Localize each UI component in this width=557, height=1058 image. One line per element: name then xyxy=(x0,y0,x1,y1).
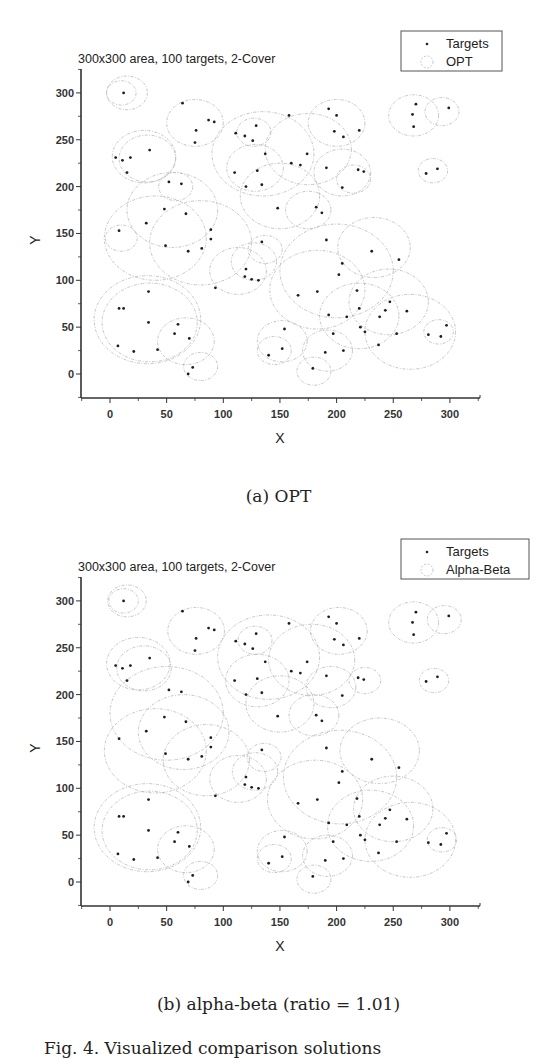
target-point xyxy=(405,310,408,313)
coverage-circle xyxy=(308,99,365,146)
target-point xyxy=(325,239,328,242)
target-point xyxy=(194,141,197,144)
x-tick-label: 100 xyxy=(214,408,232,420)
target-point xyxy=(187,250,190,253)
target-point xyxy=(122,92,125,95)
target-point xyxy=(342,136,345,139)
x-tick-label: 50 xyxy=(161,408,173,420)
target-point xyxy=(195,129,198,132)
coverage-circle xyxy=(184,352,218,380)
x-tick-label: 300 xyxy=(441,916,459,928)
target-point xyxy=(180,690,183,693)
target-point xyxy=(445,324,448,327)
target-point xyxy=(214,794,217,797)
target-point xyxy=(297,802,300,805)
target-point xyxy=(243,643,246,646)
coverage-circle xyxy=(168,607,225,654)
chart-title: 300x300 area, 100 targets, 2-Cover xyxy=(78,52,275,66)
target-point xyxy=(276,715,279,718)
target-point xyxy=(209,736,212,739)
coverage-circle xyxy=(238,626,272,654)
x-axis: 050100150200250300 xyxy=(81,903,480,928)
target-point xyxy=(209,228,212,231)
target-point xyxy=(188,337,191,340)
target-point xyxy=(325,166,328,169)
target-point xyxy=(114,156,117,159)
legend-target-dot-icon xyxy=(426,551,429,554)
x-tick-label: 0 xyxy=(107,408,113,420)
target-point xyxy=(213,629,216,632)
target-point xyxy=(255,632,258,635)
target-point xyxy=(173,332,176,335)
target-point xyxy=(325,747,328,750)
legend-label-targets: Targets xyxy=(446,544,489,559)
coverage-circle xyxy=(270,250,365,329)
figure-caption: Fig. 4. Visualized comparison solutions xyxy=(44,1038,381,1058)
target-point xyxy=(147,290,150,293)
target-point xyxy=(327,822,330,825)
target-point xyxy=(264,152,267,155)
target-point xyxy=(185,212,188,215)
target-point xyxy=(388,808,391,811)
y-tick-label: 0 xyxy=(68,876,74,888)
coverage-circle xyxy=(119,135,176,182)
target-point xyxy=(425,172,428,175)
target-point xyxy=(377,852,380,855)
target-point xyxy=(251,139,254,142)
target-point xyxy=(358,129,361,132)
x-axis: 050100150200250300 xyxy=(81,395,480,420)
target-point xyxy=(297,294,300,297)
target-point xyxy=(173,840,176,843)
target-point xyxy=(147,798,150,801)
coverage-circle xyxy=(320,283,399,349)
target-point xyxy=(358,815,361,818)
target-point xyxy=(234,640,237,643)
target-point xyxy=(250,786,253,789)
target-point xyxy=(384,309,387,312)
target-point xyxy=(255,124,258,127)
target-point xyxy=(188,845,191,848)
coverage-circle xyxy=(104,196,206,280)
coverage-circle xyxy=(212,112,314,196)
target-point xyxy=(357,168,360,171)
coverage-circle xyxy=(248,235,282,263)
target-point xyxy=(147,321,150,324)
coverage-circle xyxy=(117,646,171,691)
target-point xyxy=(358,307,361,310)
target-point xyxy=(129,156,132,159)
target-point xyxy=(324,351,327,354)
target-point xyxy=(333,130,336,133)
y-tick-label: 0 xyxy=(68,368,74,380)
target-point xyxy=(398,766,401,769)
target-point xyxy=(341,694,344,697)
x-tick-label: 150 xyxy=(271,916,289,928)
target-point xyxy=(324,859,327,862)
target-point xyxy=(256,677,259,680)
target-point xyxy=(337,781,340,784)
coverage-circle xyxy=(127,173,218,248)
coverage-circle xyxy=(424,320,453,344)
target-point xyxy=(117,344,120,347)
target-point xyxy=(251,647,254,650)
target-point xyxy=(187,881,190,884)
x-tick-label: 0 xyxy=(107,916,113,928)
target-point xyxy=(267,354,270,357)
y-tick-label: 300 xyxy=(56,87,74,99)
target-point xyxy=(341,770,344,773)
target-point xyxy=(290,162,293,165)
target-point xyxy=(327,615,330,618)
target-point xyxy=(378,823,381,826)
target-point xyxy=(364,838,367,841)
coverage-circle xyxy=(283,730,396,824)
target-point xyxy=(427,841,430,844)
target-point xyxy=(260,748,263,751)
target-point xyxy=(257,787,260,790)
target-point xyxy=(147,829,150,832)
target-point xyxy=(384,817,387,820)
coverage-circle xyxy=(340,718,419,784)
coverage-circle xyxy=(349,667,381,693)
target-point xyxy=(288,622,291,625)
target-point xyxy=(345,315,348,318)
target-point xyxy=(168,689,171,692)
target-point xyxy=(370,250,373,253)
